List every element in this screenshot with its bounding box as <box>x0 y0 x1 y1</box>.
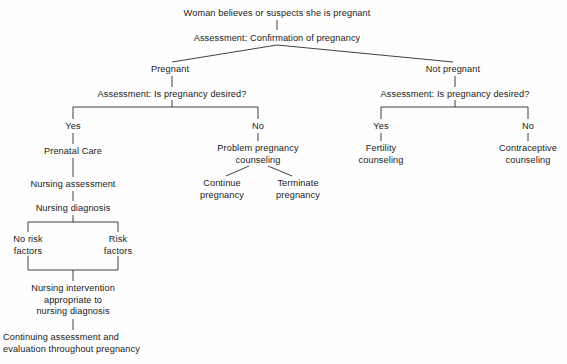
node-yes-left[interactable]: Yes <box>65 121 80 133</box>
node-terminate-pregnancy[interactable]: Terminate pregnancy <box>276 178 320 201</box>
node-continuing-assessment[interactable]: Continuing assessment and evaluation thr… <box>3 332 140 355</box>
node-problem-pregnancy-counseling[interactable]: Problem pregnancy counseling <box>217 143 298 166</box>
node-no-left[interactable]: No <box>252 121 264 133</box>
node-not-pregnant[interactable]: Not pregnant <box>426 64 480 76</box>
edge-right-bracket <box>381 107 528 119</box>
node-risk-factors[interactable]: Risk factors <box>104 234 132 257</box>
node-fertility-counseling[interactable]: Fertility counseling <box>359 143 404 166</box>
node-no-risk-factors[interactable]: No risk factors <box>13 234 42 257</box>
node-prenatal-care[interactable]: Prenatal Care <box>44 146 102 158</box>
edge-left-bracket <box>73 107 258 119</box>
node-yes-right[interactable]: Yes <box>373 121 388 133</box>
node-nursing-diagnosis[interactable]: Nursing diagnosis <box>36 203 111 215</box>
node-assessment-desired-right[interactable]: Assessment: Is pregnancy desired? <box>381 89 530 101</box>
node-nursing-assessment[interactable]: Nursing assessment <box>30 179 115 191</box>
node-assessment-desired-left[interactable]: Assessment: Is pregnancy desired? <box>98 89 247 101</box>
node-pregnant[interactable]: Pregnant <box>151 64 189 76</box>
node-root[interactable]: Woman believes or suspects she is pregna… <box>184 8 371 20</box>
flowchart-canvas: Woman believes or suspects she is pregna… <box>0 0 567 364</box>
node-no-right[interactable]: No <box>522 121 534 133</box>
edge-assess1-branches <box>172 45 453 62</box>
edge-risk-bracket <box>28 222 118 232</box>
node-continue-pregnancy[interactable]: Continue pregnancy <box>200 178 244 201</box>
edge-problem-continue <box>226 166 249 176</box>
node-contraceptive-counseling[interactable]: Contraceptive counseling <box>499 143 557 166</box>
node-assessment-confirmation[interactable]: Assessment: Confirmation of pregnancy <box>194 33 361 45</box>
edge-risk-merge <box>28 256 118 270</box>
node-nursing-intervention[interactable]: Nursing intervention appropriate to nurs… <box>31 283 115 318</box>
edge-problem-terminate <box>268 166 292 176</box>
